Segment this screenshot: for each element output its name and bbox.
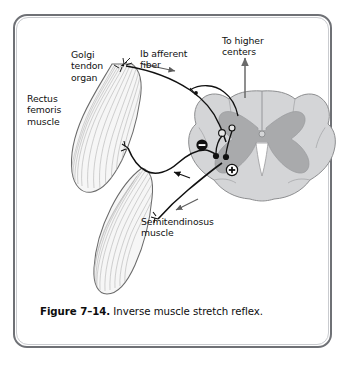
- label-ib-afferent-fiber: Ib afferent fiber: [140, 48, 187, 71]
- figure-caption: Figure 7–14. Inverse muscle stretch refl…: [40, 306, 263, 317]
- spinal-cord-cross-section: [189, 91, 336, 201]
- inhibitory-synapse-marker: [196, 139, 207, 150]
- excitatory-synapse-marker: [226, 164, 237, 175]
- figure-caption-text: Inverse muscle stretch reflex.: [110, 306, 263, 317]
- label-semitendinosus-muscle: Semitendinosus muscle: [141, 216, 214, 239]
- label-golgi-tendon-organ: Golgi tendon organ: [71, 49, 103, 83]
- label-rectus-femoris-muscle: Rectus femoris muscle: [27, 93, 61, 127]
- figure-caption-number: Figure 7–14.: [40, 306, 110, 317]
- figure-container: Golgi tendon organ Rectus femoris muscle…: [0, 0, 350, 367]
- label-to-higher-centers: To higher centers: [222, 35, 264, 58]
